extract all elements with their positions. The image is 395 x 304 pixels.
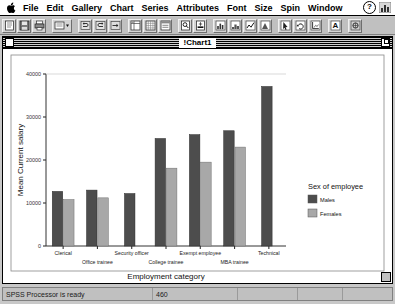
bar-chart-svg: 010000200003000040000Mean Current salary…	[3, 49, 392, 283]
toolbar-group-edit	[78, 19, 123, 33]
y-tick-label-1: 10000	[26, 200, 41, 206]
redo-button[interactable]	[93, 19, 107, 33]
spss-chart-application-window: File Edit Gallery Chart Series Attribute…	[0, 0, 395, 304]
toolbar-group-tools	[278, 19, 323, 33]
value-labels-button[interactable]	[158, 19, 172, 33]
status-cell-4	[298, 288, 343, 300]
resize-grow-box[interactable]	[381, 272, 391, 282]
find-button[interactable]	[178, 19, 192, 33]
window-title: !Chart1	[179, 38, 215, 48]
bar-chart: 010000200003000040000Mean Current salary…	[3, 49, 392, 283]
bar-males-4[interactable]	[189, 135, 200, 246]
window-title-bar[interactable]: !Chart1	[3, 37, 392, 49]
bar-females-3[interactable]	[166, 168, 177, 246]
y-tick-label-4: 40000	[26, 71, 41, 77]
bar-males-5[interactable]	[224, 131, 235, 246]
y-tick-label-0: 0	[38, 243, 41, 249]
y-tick-label-3: 30000	[26, 114, 41, 120]
select-cases-button[interactable]	[52, 19, 72, 33]
legend-swatch-females	[308, 209, 317, 217]
bar-females-1[interactable]	[98, 198, 109, 246]
bar-males-1[interactable]	[87, 190, 98, 246]
x-tick-label-0: Clerical	[54, 250, 71, 256]
toolbar-group-spin	[348, 19, 363, 33]
menu-item-series[interactable]: Series	[138, 1, 173, 15]
y-axis-title: Mean Current salary	[16, 124, 25, 196]
bar-males-0[interactable]	[52, 191, 63, 246]
help-question-icon[interactable]: ?	[363, 1, 376, 14]
menu-item-edit[interactable]: Edit	[43, 1, 68, 15]
x-tick-label-6: Technical	[258, 250, 280, 256]
new-document-button[interactable]	[2, 19, 16, 33]
menu-bar: File Edit Gallery Chart Series Attribute…	[0, 0, 395, 16]
bar-males-6[interactable]	[262, 86, 273, 246]
bar-chart-button[interactable]	[213, 19, 227, 33]
menu-item-size[interactable]: Size	[251, 1, 277, 15]
apple-menu-icon[interactable]	[3, 1, 19, 15]
svg-text:A: A	[332, 21, 338, 30]
bar-males-2[interactable]	[124, 194, 135, 246]
menu-item-window[interactable]: Window	[304, 1, 346, 15]
legend-label-males: Males	[320, 197, 335, 203]
print-button[interactable]	[32, 19, 46, 33]
status-cell-5	[343, 288, 392, 300]
goto-case-button[interactable]	[108, 19, 122, 33]
y-tick-label-2: 20000	[26, 157, 41, 163]
legend-swatch-males	[308, 195, 317, 203]
spin-button[interactable]	[348, 19, 362, 33]
status-cell-3	[238, 288, 298, 300]
legend-title: Sex of employee	[308, 182, 363, 191]
chart-canvas: 010000200003000040000Mean Current salary…	[3, 49, 392, 283]
legend-label-females: Females	[320, 211, 342, 217]
status-bar: SPSS Processor is ready 460	[2, 287, 393, 301]
menu-item-spin[interactable]: Spin	[277, 1, 305, 15]
toolbar-group-find	[178, 19, 208, 33]
menu-item-attributes[interactable]: Attributes	[173, 1, 224, 15]
menu-item-file[interactable]: File	[19, 1, 43, 15]
menu-bar-right-group: ?	[363, 1, 395, 14]
bar-males-3[interactable]	[155, 139, 166, 247]
rotate-button[interactable]	[293, 19, 307, 33]
x-tick-label-2: Security officer	[115, 250, 149, 256]
chart-document-window: !Chart1 010000200003000040000Mean Curren…	[2, 36, 393, 284]
zoom-box-icon[interactable]	[381, 38, 390, 47]
status-processor-state: SPSS Processor is ready	[3, 288, 153, 300]
grid-button[interactable]	[143, 19, 157, 33]
text-tool-button[interactable]: A	[328, 19, 342, 33]
close-box-icon[interactable]	[5, 38, 14, 47]
toolbar-group-text: A	[328, 19, 343, 33]
toolbar-group-charts	[213, 19, 273, 33]
axis-button[interactable]	[308, 19, 322, 33]
x-tick-label-1: Office trainee	[82, 259, 113, 265]
status-case-count: 460	[153, 288, 238, 300]
area-chart-button[interactable]	[258, 19, 272, 33]
undo-button[interactable]	[78, 19, 92, 33]
insert-case-button[interactable]	[193, 19, 207, 33]
menu-item-font[interactable]: Font	[223, 1, 251, 15]
x-axis-title: Employment category	[127, 272, 204, 281]
histogram-button[interactable]	[228, 19, 242, 33]
applications-menu-icon[interactable]	[379, 2, 391, 13]
line-chart-button[interactable]	[243, 19, 257, 33]
variables-button[interactable]	[128, 19, 142, 33]
menu-item-chart[interactable]: Chart	[106, 1, 138, 15]
x-tick-label-4: Exempt employee	[180, 250, 222, 256]
x-tick-label-5: MBA trainee	[220, 259, 248, 265]
toolbar-group-select	[52, 19, 73, 33]
toolbar-group-file	[2, 19, 47, 33]
toolbar-group-data	[128, 19, 173, 33]
bar-females-5[interactable]	[235, 147, 246, 246]
toolbar: A	[0, 17, 395, 35]
bar-females-4[interactable]	[201, 162, 212, 246]
pointer-button[interactable]	[278, 19, 292, 33]
x-tick-label-3: College trainee	[149, 259, 184, 265]
save-button[interactable]	[17, 19, 31, 33]
menu-item-gallery[interactable]: Gallery	[68, 1, 107, 15]
bar-females-0[interactable]	[64, 200, 75, 246]
